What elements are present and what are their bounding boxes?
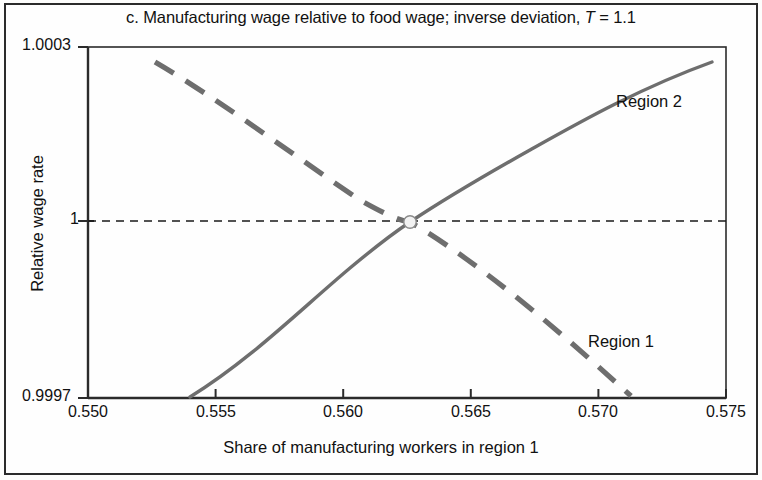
x-tick-label-3: 0.565 [436, 403, 506, 421]
y-tick-label-mid: 1 [70, 210, 79, 228]
x-tick-label-5: 0.575 [691, 403, 761, 421]
series-label-region-1: Region 1 [588, 332, 654, 351]
y-tick-label-top: 1.0003 [22, 36, 71, 54]
x-tick-label-0: 0.550 [53, 403, 123, 421]
x-tick-label-2: 0.560 [308, 403, 378, 421]
y-axis-title: Relative wage rate [28, 124, 47, 324]
x-tick-label-4: 0.570 [563, 403, 633, 421]
intersection-marker [404, 216, 416, 228]
x-axis-title: Share of manufacturing workers in region… [0, 438, 762, 457]
x-tick-label-1: 0.555 [181, 403, 251, 421]
figure-container: c. Manufacturing wage relative to food w… [0, 0, 762, 480]
series-line-region-1 [155, 62, 631, 396]
series-label-region-2: Region 2 [616, 92, 682, 111]
